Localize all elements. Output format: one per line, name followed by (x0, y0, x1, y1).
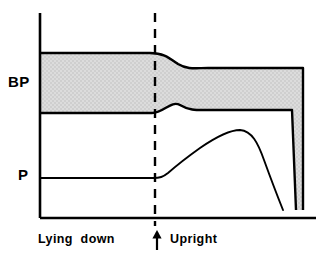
up-arrow-icon (152, 230, 161, 250)
y-axis-label-p: P (18, 166, 28, 183)
x-caption-upright: Upright (170, 232, 217, 246)
bp-diastolic-curve (40, 104, 296, 210)
y-axis-label-bp: BP (8, 73, 29, 90)
bp-band-shaded-area (40, 53, 303, 210)
plot-area (0, 0, 328, 264)
pulse-curve (40, 130, 283, 210)
physiology-chart-figure: BP P Lying down Upright (0, 0, 328, 264)
x-caption-lying-down: Lying down (38, 232, 115, 246)
